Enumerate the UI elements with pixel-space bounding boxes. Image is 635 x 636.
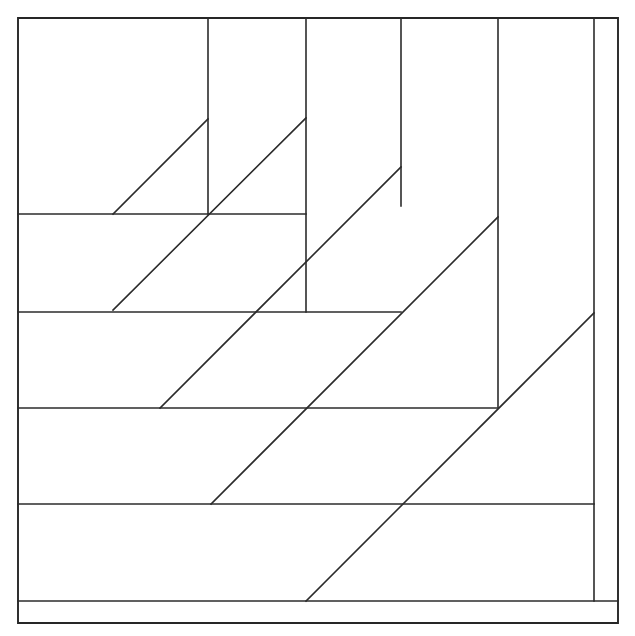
canvas-background <box>0 0 635 636</box>
figure-container: Nested right-triangle spiral line figure <box>0 0 635 636</box>
line-figure-canvas <box>0 0 635 636</box>
